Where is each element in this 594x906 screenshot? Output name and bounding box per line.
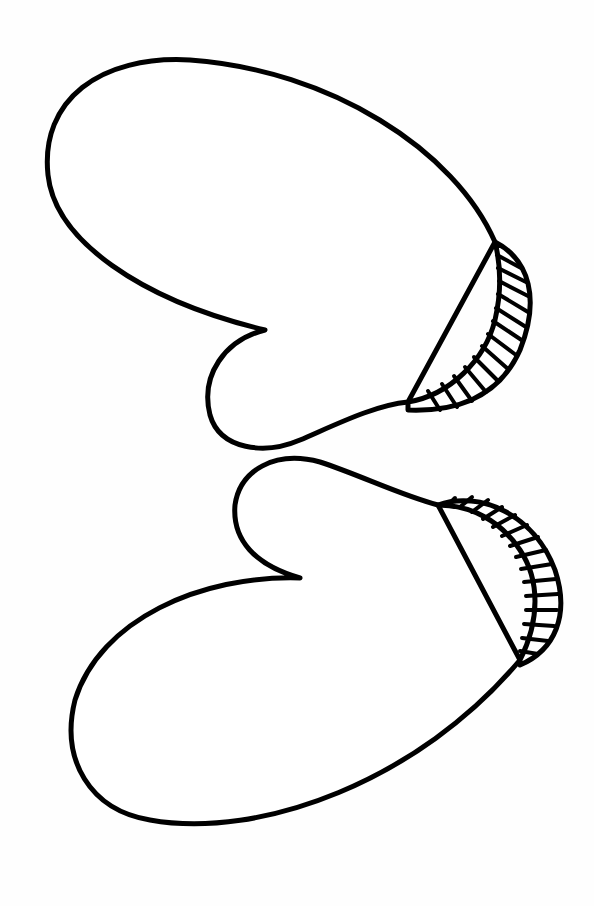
illustration-canvas: Two mittens line drawing bbox=[0, 0, 594, 906]
top-mitten bbox=[47, 60, 530, 448]
bottom-mitten bbox=[71, 459, 561, 824]
bottom-mitten-outline bbox=[71, 459, 520, 824]
mittens-drawing bbox=[0, 0, 594, 906]
